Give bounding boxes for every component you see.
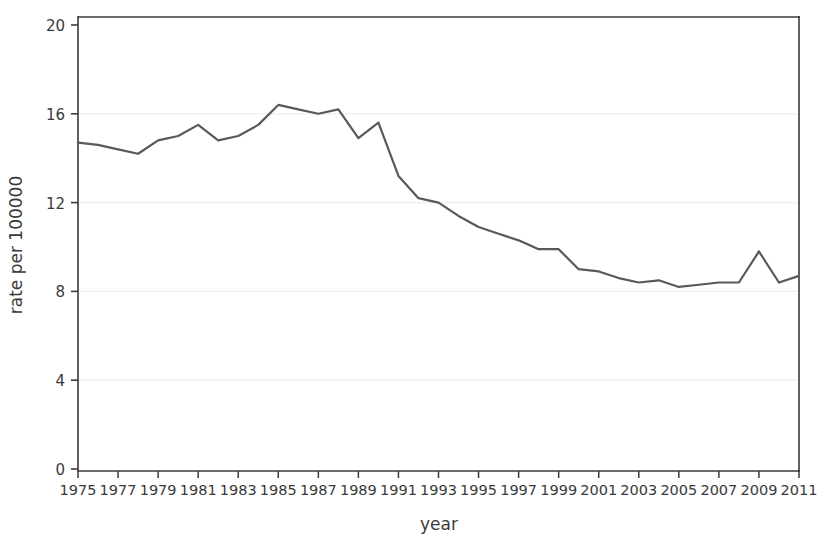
- x-tick-label-1985: 1985: [260, 482, 297, 498]
- y-tick-label-20: 20: [46, 17, 65, 35]
- y-tick-label-4: 4: [55, 372, 65, 390]
- x-tick-label-1983: 1983: [220, 482, 257, 498]
- line-chart-figure: 048121620 197519771979198119831985198719…: [0, 0, 820, 545]
- x-tick-label-2003: 2003: [620, 482, 657, 498]
- x-tick-label-1989: 1989: [340, 482, 377, 498]
- x-tick-label-1999: 1999: [540, 482, 577, 498]
- x-tick-label-1981: 1981: [180, 482, 217, 498]
- x-tick-label-1977: 1977: [100, 482, 137, 498]
- y-tick-label-8: 8: [55, 283, 65, 301]
- x-tick-label-2001: 2001: [580, 482, 617, 498]
- y-tick-label-12: 12: [46, 195, 65, 213]
- chart-canvas: 048121620 197519771979198119831985198719…: [0, 0, 820, 545]
- x-tick-label-1995: 1995: [460, 482, 497, 498]
- x-tick-label-1987: 1987: [300, 482, 337, 498]
- x-tick-label-1979: 1979: [140, 482, 177, 498]
- x-tick-label-2009: 2009: [740, 482, 777, 498]
- chart-background: [0, 0, 820, 545]
- x-tick-label-1997: 1997: [500, 482, 537, 498]
- x-tick-label-1975: 1975: [60, 482, 97, 498]
- y-axis-title: rate per 100000: [6, 176, 26, 314]
- y-tick-label-0: 0: [55, 461, 65, 479]
- y-tick-label-16: 16: [46, 106, 65, 124]
- x-tick-label-1993: 1993: [420, 482, 457, 498]
- x-tick-label-2007: 2007: [700, 482, 737, 498]
- x-tick-label-2005: 2005: [660, 482, 697, 498]
- x-tick-label-2011: 2011: [781, 482, 818, 498]
- x-tick-label-1991: 1991: [380, 482, 417, 498]
- x-axis-title: year: [420, 514, 458, 534]
